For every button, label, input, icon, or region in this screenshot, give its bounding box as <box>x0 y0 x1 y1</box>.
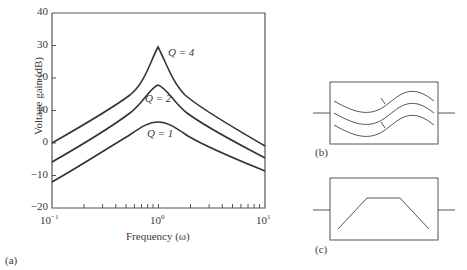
figure-canvas <box>0 0 467 270</box>
y-tick-40: 40 <box>24 5 48 17</box>
filter-symbol-c <box>313 178 455 240</box>
y-tick-neg20: −20 <box>24 200 48 212</box>
label-q1: Q = 1 <box>147 127 173 139</box>
x-tick-10: 101 <box>256 213 271 226</box>
x-axis-label: Frequency (ω) <box>126 230 190 242</box>
y-axis-label: Voltage gain (dB) <box>32 36 44 156</box>
x-tick-1: 100 <box>150 213 165 226</box>
filter-symbol-b <box>313 82 455 144</box>
panel-label-b: (b) <box>315 146 328 158</box>
plot-frame <box>52 13 265 208</box>
x-tick-0.1: 10−1 <box>40 213 58 226</box>
panel-label-a: (a) <box>5 254 17 266</box>
panel-label-c: (c) <box>315 243 327 255</box>
label-q2: Q = 2 <box>145 92 171 104</box>
label-q4: Q = 4 <box>168 46 194 58</box>
y-tick-neg10: −10 <box>24 168 48 180</box>
